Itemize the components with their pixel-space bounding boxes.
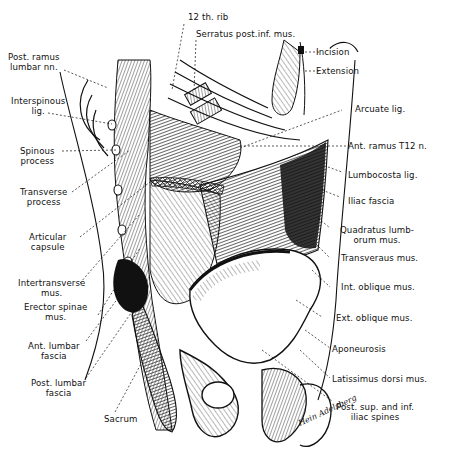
label-aponeurosis: Aponeurosis (332, 344, 386, 354)
label-extension: Extension (316, 66, 359, 76)
label-ext-oblique-mus: Ext. oblique mus. (336, 313, 412, 323)
label-intertransverse-mus: Intertransverse mus. (18, 278, 85, 298)
label-transverse-process: Transverse process (20, 187, 67, 207)
serratus-muscle (185, 83, 222, 124)
label-post-sup-inf-iliac-spines: Post. sup. and inf. iliac spines (336, 402, 414, 422)
label-sacrum: Sacrum (104, 414, 137, 424)
label-erector-spinae-mus: Erector spinae mus. (24, 302, 87, 322)
label-lumbocosta-lig: Lumbocosta lig. (348, 170, 417, 180)
label-spinous-process: Spinous process (20, 146, 55, 166)
label-post-lumbar-fascia: Post. lumbar fascia (31, 378, 86, 398)
label-serratus-post-inf: Serratus post.inf. mus. (196, 29, 295, 39)
label-quadratus-lumborum: Quadratus lumb- orum mus. (340, 225, 414, 245)
label-transversus-mus: Transverаus mus. (341, 253, 418, 263)
label-latissimus-dorsi: Latissimus dorsi mus. (332, 374, 427, 384)
label-post-ramus-lumbar-nn: Post. ramus lumbar nn. (8, 52, 60, 72)
inset-figure (272, 40, 305, 115)
label-incision: Incision (316, 47, 349, 57)
label-arcuate-lig: Arcuate lig. (355, 104, 405, 114)
femur-head (262, 368, 306, 441)
label-articular-capsule: Articular capsule (29, 232, 66, 252)
label-ant-lumbar-fascia: Ant. lumbar fascia (28, 341, 80, 361)
label-ant-ramus-t12: Ant. ramus T12 n. (348, 141, 427, 151)
label-12th-rib: 12 th. rib (188, 12, 228, 22)
label-int-oblique-mus: Int. oblique mus. (341, 282, 415, 292)
label-iliac-fascia: Iliac fascia (348, 196, 394, 206)
obturator-foramen (202, 382, 234, 408)
label-interspinous-lig: Interspinous lig. (11, 96, 65, 116)
